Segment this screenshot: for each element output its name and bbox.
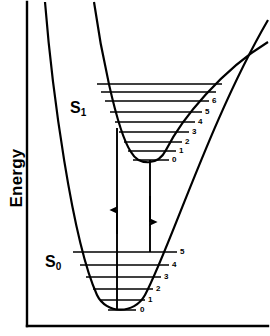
state-label-s1: S1 [70,99,86,117]
s0-level-label-1: 1 [148,296,152,304]
state-label-s1-subscript: 1 [81,107,87,118]
s1-level-label-2: 2 [185,138,189,146]
state-label-s0-text: S [45,253,56,270]
s1-level-label-0: 0 [172,156,176,164]
s0-potential-curve [45,2,268,310]
s1-level-label-1: 1 [179,147,183,155]
state-label-s0-subscript: 0 [56,261,62,272]
diagram-canvas: Energy S1 S0 0 1 2 3 4 5 6 0 1 2 3 4 5 [0,0,270,336]
s1-level-label-6: 6 [212,97,216,105]
s0-level-label-2: 2 [156,285,160,293]
s0-level-label-5: 5 [180,248,184,256]
state-label-s0: S0 [45,253,61,271]
s1-potential-curve [94,2,268,162]
s1-level-label-5: 5 [205,108,209,116]
y-axis-label: Energy [7,128,27,228]
s1-level-label-3: 3 [192,128,196,136]
potential-energy-plot [0,0,270,336]
s0-level-label-4: 4 [172,261,176,269]
s1-level-label-4: 4 [198,118,202,126]
s1-vibrational-levels [97,84,222,160]
s0-level-label-3: 3 [164,273,168,281]
s0-level-label-0: 0 [140,306,144,314]
state-label-s1-text: S [70,99,81,116]
